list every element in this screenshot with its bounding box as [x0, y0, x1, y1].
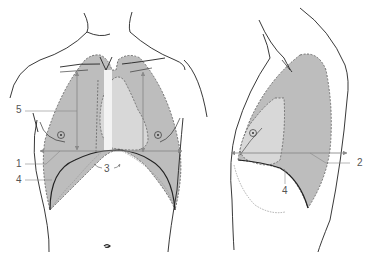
label-2: 2	[357, 158, 363, 168]
label-1: 1	[16, 159, 22, 169]
front-outline	[259, 20, 292, 72]
lateral-view	[184, 8, 350, 252]
frontal-view	[10, 12, 185, 252]
mediastinum	[104, 70, 112, 150]
navel	[104, 245, 110, 248]
thorax-diagram	[0, 0, 368, 261]
neck-outline	[84, 13, 110, 36]
label-4-lateral: 4	[282, 186, 288, 196]
pleural-recess-line-lateral	[234, 165, 285, 213]
label-3: 3	[104, 164, 110, 174]
label-5: 5	[16, 105, 22, 115]
label-4-frontal: 4	[16, 175, 22, 185]
